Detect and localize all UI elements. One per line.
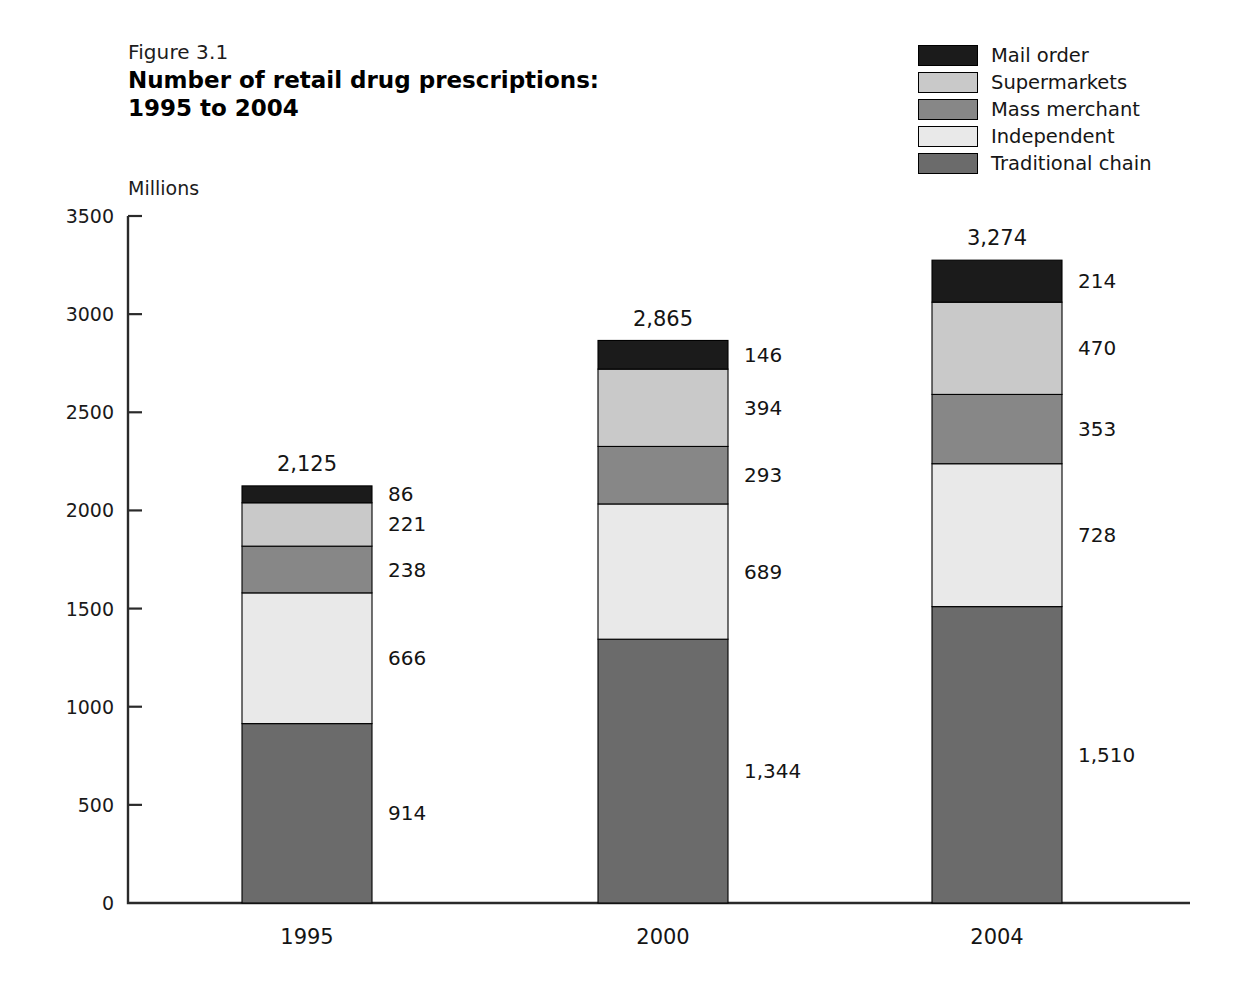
- bar-segment[interactable]: [932, 302, 1062, 394]
- bar-segment-value-label: 1,344: [744, 759, 801, 783]
- y-axis-tick-label: 3000: [66, 303, 114, 325]
- bar-segment[interactable]: [598, 446, 728, 504]
- bar-segment-value-label: 470: [1078, 336, 1116, 360]
- bar-total-label: 3,274: [967, 226, 1027, 250]
- bar-segment-value-label: 689: [744, 560, 782, 584]
- bar-segment-value-label: 914: [388, 801, 426, 825]
- figure-container: Figure 3.1 Number of retail drug prescri…: [0, 0, 1240, 989]
- bar-total-label: 2,865: [633, 307, 693, 331]
- bar-segment[interactable]: [242, 593, 372, 724]
- x-axis-category-label: 2000: [636, 925, 689, 949]
- bar-segment[interactable]: [242, 724, 372, 903]
- bar-segment-value-label: 1,510: [1078, 743, 1135, 767]
- bar-segment[interactable]: [932, 607, 1062, 903]
- bar-segment-value-label: 214: [1078, 269, 1116, 293]
- bar-segment-value-label: 146: [744, 343, 782, 367]
- bar-segment[interactable]: [598, 369, 728, 446]
- bar-segment-value-label: 86: [388, 482, 413, 506]
- bar-segment-value-label: 221: [388, 512, 426, 536]
- y-axis-tick-label: 1000: [66, 696, 114, 718]
- bar-segment[interactable]: [598, 340, 728, 369]
- bar-segment-value-label: 666: [388, 646, 426, 670]
- bar-segment[interactable]: [932, 260, 1062, 302]
- bar-segment[interactable]: [598, 639, 728, 903]
- bar-total-label: 2,125: [277, 452, 337, 476]
- y-axis-tick-label: 0: [102, 892, 114, 914]
- x-axis-category-label: 1995: [280, 925, 333, 949]
- y-axis-tick-label: 3500: [66, 205, 114, 227]
- y-axis-tick-label: 1500: [66, 598, 114, 620]
- x-axis-category-label: 2004: [970, 925, 1023, 949]
- bar-segment-value-label: 293: [744, 463, 782, 487]
- y-axis-tick-label: 500: [78, 794, 114, 816]
- stacked-bar-chart: 0500100015002000250030003500914666238221…: [0, 0, 1240, 989]
- y-axis-tick-label: 2000: [66, 499, 114, 521]
- bar-segment-value-label: 728: [1078, 523, 1116, 547]
- bar-segment-value-label: 353: [1078, 417, 1116, 441]
- bar-segment[interactable]: [932, 464, 1062, 607]
- y-axis-tick-label: 2500: [66, 401, 114, 423]
- bar-segment-value-label: 238: [388, 558, 426, 582]
- bar-segment[interactable]: [242, 546, 372, 593]
- bar-segment[interactable]: [242, 486, 372, 503]
- bar-segment-value-label: 394: [744, 396, 782, 420]
- bar-segment[interactable]: [242, 503, 372, 546]
- bar-segment[interactable]: [598, 504, 728, 639]
- bar-segment[interactable]: [932, 394, 1062, 463]
